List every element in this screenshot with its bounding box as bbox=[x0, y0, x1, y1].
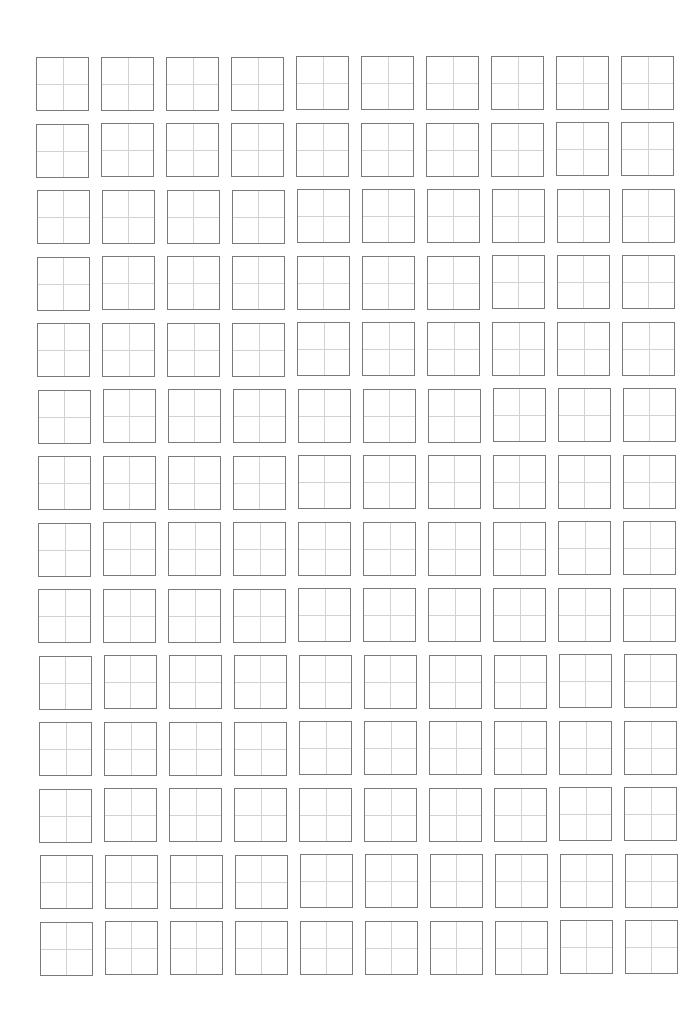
practice-cell[interactable] bbox=[235, 855, 288, 909]
practice-cell[interactable] bbox=[559, 721, 612, 775]
practice-cell[interactable] bbox=[104, 788, 157, 842]
practice-cell[interactable] bbox=[169, 788, 222, 842]
practice-cell[interactable] bbox=[427, 256, 480, 310]
practice-cell[interactable] bbox=[103, 522, 156, 576]
practice-cell[interactable] bbox=[492, 189, 545, 243]
practice-cell[interactable] bbox=[104, 655, 157, 709]
practice-cell[interactable] bbox=[364, 788, 417, 842]
practice-cell[interactable] bbox=[233, 522, 286, 576]
practice-cell[interactable] bbox=[37, 323, 90, 377]
practice-cell[interactable] bbox=[297, 256, 350, 310]
practice-cell[interactable] bbox=[365, 854, 418, 908]
practice-cell[interactable] bbox=[168, 589, 221, 643]
practice-cell[interactable] bbox=[560, 920, 613, 974]
practice-cell[interactable] bbox=[621, 56, 674, 110]
practice-cell[interactable] bbox=[495, 921, 548, 975]
practice-cell[interactable] bbox=[300, 854, 353, 908]
practice-cell[interactable] bbox=[623, 521, 676, 575]
practice-cell[interactable] bbox=[364, 655, 417, 709]
practice-cell[interactable] bbox=[494, 655, 547, 709]
practice-cell[interactable] bbox=[298, 389, 351, 443]
practice-cell[interactable] bbox=[168, 456, 221, 510]
practice-cell[interactable] bbox=[493, 388, 546, 442]
practice-cell[interactable] bbox=[363, 522, 416, 576]
practice-cell[interactable] bbox=[169, 655, 222, 709]
practice-cell[interactable] bbox=[427, 322, 480, 376]
practice-cell[interactable] bbox=[429, 721, 482, 775]
practice-cell[interactable] bbox=[39, 789, 92, 843]
practice-cell[interactable] bbox=[103, 589, 156, 643]
practice-cell[interactable] bbox=[166, 123, 219, 177]
practice-cell[interactable] bbox=[492, 322, 545, 376]
practice-cell[interactable] bbox=[493, 522, 546, 576]
practice-cell[interactable] bbox=[428, 389, 481, 443]
practice-cell[interactable] bbox=[233, 389, 286, 443]
practice-cell[interactable] bbox=[168, 522, 221, 576]
practice-cell[interactable] bbox=[232, 323, 285, 377]
practice-cell[interactable] bbox=[493, 588, 546, 642]
practice-cell[interactable] bbox=[559, 787, 612, 841]
practice-cell[interactable] bbox=[624, 721, 677, 775]
practice-cell[interactable] bbox=[105, 921, 158, 975]
practice-cell[interactable] bbox=[493, 455, 546, 509]
practice-cell[interactable] bbox=[231, 57, 284, 111]
practice-cell[interactable] bbox=[105, 855, 158, 909]
practice-cell[interactable] bbox=[104, 722, 157, 776]
practice-cell[interactable] bbox=[491, 56, 544, 110]
practice-cell[interactable] bbox=[298, 455, 351, 509]
practice-cell[interactable] bbox=[39, 656, 92, 710]
practice-cell[interactable] bbox=[361, 56, 414, 110]
practice-cell[interactable] bbox=[40, 855, 93, 909]
practice-cell[interactable] bbox=[426, 56, 479, 110]
practice-cell[interactable] bbox=[622, 255, 675, 309]
practice-cell[interactable] bbox=[231, 123, 284, 177]
practice-cell[interactable] bbox=[558, 388, 611, 442]
practice-cell[interactable] bbox=[560, 854, 613, 908]
practice-cell[interactable] bbox=[167, 256, 220, 310]
practice-cell[interactable] bbox=[38, 589, 91, 643]
practice-cell[interactable] bbox=[234, 722, 287, 776]
practice-cell[interactable] bbox=[556, 56, 609, 110]
practice-cell[interactable] bbox=[39, 722, 92, 776]
practice-cell[interactable] bbox=[556, 122, 609, 176]
practice-cell[interactable] bbox=[362, 256, 415, 310]
practice-cell[interactable] bbox=[296, 56, 349, 110]
practice-cell[interactable] bbox=[430, 921, 483, 975]
practice-cell[interactable] bbox=[429, 788, 482, 842]
practice-cell[interactable] bbox=[38, 390, 91, 444]
practice-cell[interactable] bbox=[298, 588, 351, 642]
practice-cell[interactable] bbox=[363, 389, 416, 443]
practice-cell[interactable] bbox=[168, 389, 221, 443]
practice-cell[interactable] bbox=[297, 189, 350, 243]
practice-cell[interactable] bbox=[102, 323, 155, 377]
practice-cell[interactable] bbox=[625, 920, 678, 974]
practice-cell[interactable] bbox=[621, 122, 674, 176]
practice-cell[interactable] bbox=[361, 123, 414, 177]
practice-cell[interactable] bbox=[38, 523, 91, 577]
practice-cell[interactable] bbox=[297, 322, 350, 376]
practice-cell[interactable] bbox=[101, 57, 154, 111]
practice-cell[interactable] bbox=[103, 456, 156, 510]
practice-cell[interactable] bbox=[234, 655, 287, 709]
practice-cell[interactable] bbox=[362, 322, 415, 376]
practice-cell[interactable] bbox=[299, 655, 352, 709]
practice-cell[interactable] bbox=[558, 521, 611, 575]
practice-cell[interactable] bbox=[232, 256, 285, 310]
practice-cell[interactable] bbox=[38, 456, 91, 510]
practice-cell[interactable] bbox=[102, 256, 155, 310]
practice-cell[interactable] bbox=[494, 788, 547, 842]
practice-cell[interactable] bbox=[558, 588, 611, 642]
practice-cell[interactable] bbox=[101, 123, 154, 177]
practice-cell[interactable] bbox=[167, 190, 220, 244]
practice-cell[interactable] bbox=[296, 123, 349, 177]
practice-cell[interactable] bbox=[232, 190, 285, 244]
practice-cell[interactable] bbox=[36, 124, 89, 178]
practice-cell[interactable] bbox=[364, 721, 417, 775]
practice-cell[interactable] bbox=[37, 257, 90, 311]
practice-cell[interactable] bbox=[622, 189, 675, 243]
practice-cell[interactable] bbox=[299, 721, 352, 775]
practice-cell[interactable] bbox=[429, 655, 482, 709]
practice-cell[interactable] bbox=[624, 787, 677, 841]
practice-cell[interactable] bbox=[623, 388, 676, 442]
practice-cell[interactable] bbox=[623, 588, 676, 642]
